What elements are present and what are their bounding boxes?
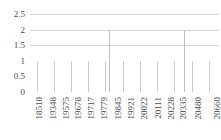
x-tick-label: 19921 [127, 97, 136, 120]
x-tick-label: 18510 [35, 97, 44, 120]
y-tick-label: 2.5 [14, 10, 25, 19]
x-tick-label: 20022 [140, 97, 149, 120]
y-axis: 00.511.522.5 [0, 14, 27, 92]
bars-layer [30, 14, 219, 92]
y-tick-label: 0.5 [14, 72, 25, 81]
y-tick-label: 1.5 [14, 41, 25, 50]
bar-chart: 00.511.522.5 185101934819575196781971719… [0, 0, 221, 140]
x-tick-label: 19779 [100, 97, 109, 120]
plot-area [30, 14, 219, 92]
x-tick-label: 20228 [167, 97, 176, 120]
x-tick-label: 20660 [213, 97, 221, 120]
bar [217, 61, 219, 92]
y-tick-label: 2 [21, 25, 26, 34]
x-tick-label: 19717 [87, 97, 96, 120]
x-tick-label: 20111 [154, 97, 163, 119]
x-axis: 1851019348195751967819717197791984519921… [30, 93, 219, 140]
x-tick-label: 20480 [194, 97, 203, 120]
x-tick-label: 19845 [114, 97, 123, 120]
x-tick-label: 19575 [62, 97, 71, 120]
x-tick-label: 19678 [74, 97, 83, 120]
y-tick-label: 1 [21, 56, 26, 65]
y-tick-label: 0 [21, 88, 26, 97]
x-tick-label: 20335 [179, 97, 188, 120]
x-tick-label: 19348 [49, 97, 58, 120]
